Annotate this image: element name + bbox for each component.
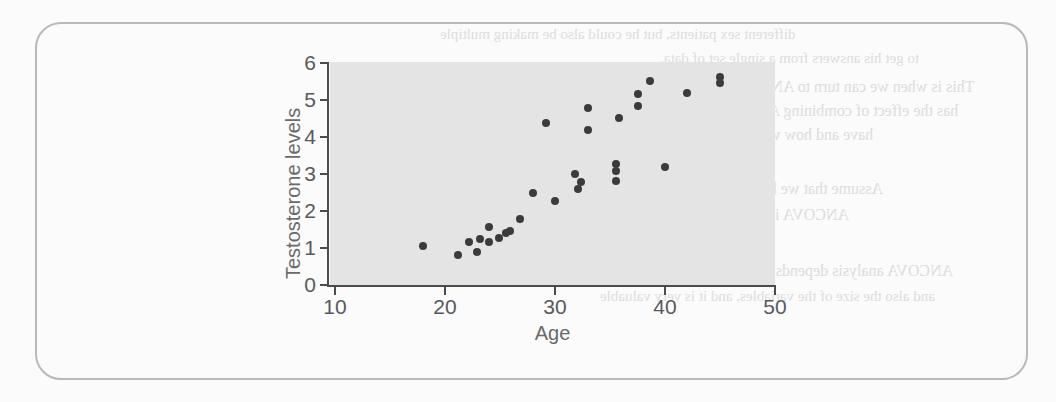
y-axis-tick-label: 6 xyxy=(292,52,316,73)
x-axis-line xyxy=(327,285,776,287)
x-axis-tick xyxy=(554,287,556,295)
y-axis-tick xyxy=(320,99,327,101)
x-axis-tick xyxy=(664,287,666,295)
x-axis-tick xyxy=(334,287,336,295)
data-point xyxy=(516,215,524,223)
x-axis-tick-label: 30 xyxy=(535,296,575,317)
y-axis-tick xyxy=(320,247,327,249)
data-point xyxy=(551,197,559,205)
x-axis-tick xyxy=(774,287,776,295)
x-axis-title: Age xyxy=(290,322,815,345)
data-point xyxy=(634,90,642,98)
y-axis-tick xyxy=(320,136,327,138)
data-point xyxy=(612,177,620,185)
data-point xyxy=(476,235,484,243)
data-point xyxy=(612,167,620,175)
y-axis-line xyxy=(327,62,329,286)
x-axis-tick-label: 20 xyxy=(425,296,465,317)
data-point xyxy=(473,248,481,256)
data-point xyxy=(646,77,654,85)
y-axis-title: Testosterone levels xyxy=(282,108,305,279)
y-axis-tick xyxy=(320,173,327,175)
y-axis-tick xyxy=(320,210,327,212)
data-point xyxy=(634,102,642,110)
data-point xyxy=(661,163,669,171)
scatter-plot-figure: 01234561020304050 Testosterone levels Ag… xyxy=(0,0,1056,402)
y-axis-tick xyxy=(320,284,327,286)
data-point xyxy=(529,189,537,197)
x-axis-tick-label: 40 xyxy=(645,296,685,317)
data-point xyxy=(612,160,620,168)
data-point xyxy=(615,114,623,122)
plot-area xyxy=(330,62,775,285)
data-point xyxy=(485,223,493,231)
x-axis-tick-label: 10 xyxy=(315,296,355,317)
x-axis-tick-label: 50 xyxy=(755,296,795,317)
y-axis-tick xyxy=(320,62,327,64)
x-axis-tick xyxy=(444,287,446,295)
data-point xyxy=(506,227,514,235)
data-point xyxy=(571,170,579,178)
